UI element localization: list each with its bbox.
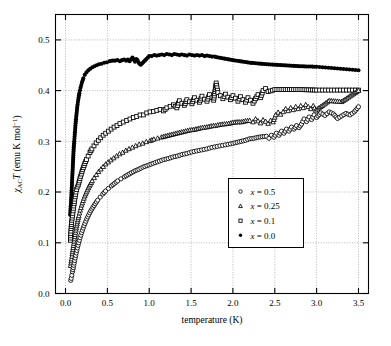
y-tick-label: 0.4 xyxy=(38,86,50,96)
legend-item-label: x = 0.1 xyxy=(250,216,276,226)
svg-text:χACT (emu K mol−1): χACT (emu K mol−1) xyxy=(11,115,23,193)
y-axis-title: χACT (emu K mol−1) xyxy=(11,115,23,193)
x-tick-label: 1.5 xyxy=(185,298,197,308)
x-axis-title: temperature (K) xyxy=(182,315,243,326)
y-tick-label: 0.3 xyxy=(38,137,50,147)
data-series-layer xyxy=(68,52,361,282)
data-point xyxy=(356,105,360,109)
y-tick-label: 0.2 xyxy=(38,187,49,197)
x-tick-label: 2.0 xyxy=(227,298,239,308)
x-tick-label: 0.0 xyxy=(60,298,72,308)
y-tick-label: 0.0 xyxy=(38,289,50,299)
legend-item-label: x = 0.25 xyxy=(250,201,281,211)
x-tick-label: 1.0 xyxy=(144,298,156,308)
y-tick-label: 0.1 xyxy=(38,238,49,248)
figure-container: 0.00.51.01.52.02.53.03.50.00.10.20.30.40… xyxy=(0,0,391,346)
x-tick-label: 3.0 xyxy=(311,298,323,308)
legend-item-label: x = 0.0 xyxy=(250,231,276,241)
x-tick-label: 3.5 xyxy=(353,298,365,308)
x-tick-label: 0.5 xyxy=(102,298,114,308)
x-tick-label: 2.5 xyxy=(269,298,281,308)
legend-item-label: x = 0.5 xyxy=(250,187,276,197)
y-tick-label: 0.5 xyxy=(38,35,50,45)
chart-canvas: 0.00.51.01.52.02.53.03.50.00.10.20.30.40… xyxy=(0,0,391,346)
data-point xyxy=(239,234,242,237)
data-point xyxy=(356,68,360,72)
data-point xyxy=(81,76,85,80)
tick-labels: 0.00.51.01.52.02.53.03.50.00.10.20.30.40… xyxy=(38,35,364,307)
chart-legend[interactable]: x = 0.5x = 0.25x = 0.1x = 0.0 xyxy=(229,179,304,248)
data-point xyxy=(239,190,242,193)
data-point xyxy=(239,219,242,222)
